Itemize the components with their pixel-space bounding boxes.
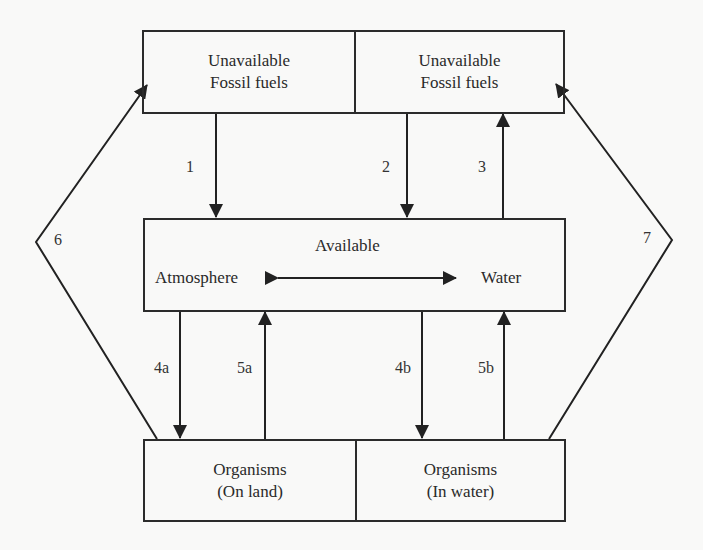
water-label: Water	[481, 268, 521, 288]
available-box	[143, 218, 566, 312]
arrow-4a-label: 4a	[154, 359, 169, 377]
organisms-water-line1: Organisms	[424, 459, 497, 481]
arrow-7-label: 7	[643, 229, 651, 247]
arrow-5a-label: 5a	[237, 359, 252, 377]
organisms-water-cell: Organisms (In water)	[357, 441, 564, 520]
organisms-water-line2: (In water)	[427, 481, 495, 503]
organisms-land-line1: Organisms	[213, 459, 286, 481]
atmosphere-label: Atmosphere	[155, 268, 238, 288]
fossil-fuels-left-line1: Unavailable	[208, 50, 290, 72]
fossil-fuels-left-line2: Fossil fuels	[210, 72, 288, 94]
arrow-6-label: 6	[54, 231, 62, 249]
fossil-fuels-right-line2: Fossil fuels	[421, 72, 499, 94]
arrow-7	[549, 84, 672, 439]
arrow-2-label: 2	[382, 158, 390, 176]
arrow-3-label: 3	[478, 158, 486, 176]
arrow-5b-label: 5b	[478, 359, 494, 377]
fossil-fuels-left-cell: Unavailable Fossil fuels	[144, 32, 354, 112]
arrow-1-label: 1	[186, 158, 194, 176]
unavailable-fossil-fuels-box: Unavailable Fossil fuels Unavailable Fos…	[142, 30, 565, 114]
fossil-fuels-right-cell: Unavailable Fossil fuels	[356, 32, 563, 112]
organisms-land-line2: (On land)	[217, 481, 283, 503]
arrow-4b-label: 4b	[395, 359, 411, 377]
fossil-fuels-right-line1: Unavailable	[418, 50, 500, 72]
organisms-land-cell: Organisms (On land)	[145, 441, 355, 520]
available-heading: Available	[315, 236, 380, 256]
arrow-6	[36, 85, 157, 439]
organisms-box: Organisms (On land) Organisms (In water)	[143, 439, 566, 522]
carbon-cycle-diagram: Unavailable Fossil fuels Unavailable Fos…	[0, 0, 703, 550]
